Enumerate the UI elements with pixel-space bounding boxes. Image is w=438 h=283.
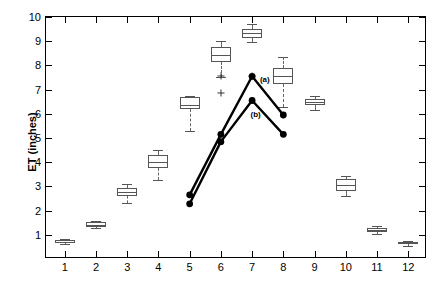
y-tick-label: 2	[35, 205, 41, 217]
series-point	[186, 200, 193, 207]
x-tick-label: 11	[371, 261, 382, 273]
x-tick-label: 10	[340, 261, 352, 273]
y-tick-label: 7	[35, 84, 41, 96]
series-line	[190, 100, 284, 203]
y-tick-label: 9	[35, 35, 41, 47]
y-tick-label: 8	[35, 59, 41, 71]
x-tick-label: 4	[155, 261, 161, 273]
x-tick-label: 3	[124, 261, 130, 273]
series-point	[280, 112, 287, 119]
y-tick-label: 4	[35, 156, 41, 168]
series-label: (b)	[251, 109, 261, 118]
plot-area: 12345678910 123456789101112 (a)(b)	[45, 16, 426, 258]
chart-figure: ET (inches) 12345678910 123456789101112 …	[0, 0, 438, 283]
series-label: (a)	[260, 74, 270, 83]
series-layer	[46, 17, 427, 259]
x-tick-label: 8	[280, 261, 286, 273]
x-tick-label: 5	[187, 261, 193, 273]
y-tick-label: 3	[35, 180, 41, 192]
x-tick-label: 9	[312, 261, 318, 273]
y-tick-label: 10	[29, 11, 41, 23]
series-point	[249, 97, 256, 104]
y-tick-label: 1	[35, 229, 41, 241]
series-point	[217, 138, 224, 145]
x-tick-label: 6	[218, 261, 224, 273]
y-tick-label: 5	[35, 132, 41, 144]
y-tick-label: 6	[35, 108, 41, 120]
x-tick-label: 2	[93, 261, 99, 273]
series-point	[249, 73, 256, 80]
x-tick-label: 12	[402, 261, 414, 273]
series-point	[280, 131, 287, 138]
x-tick-label: 1	[62, 261, 68, 273]
x-tick-label: 7	[249, 261, 255, 273]
